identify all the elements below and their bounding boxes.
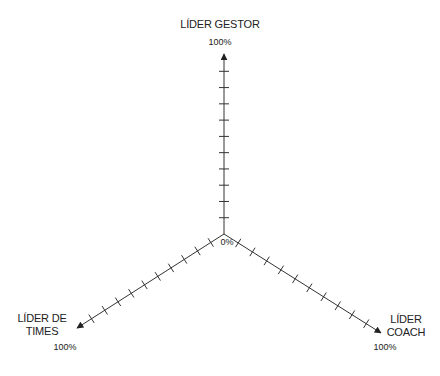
axis-max-coach: 100%	[360, 341, 410, 354]
axis-label-coach-line1: LÍDER	[376, 313, 436, 326]
axis-label-gestor: LÍDER GESTOR	[170, 18, 270, 31]
origin-label: 0%	[216, 236, 238, 249]
axis-coach	[224, 234, 381, 333]
axis-label-coach-line2: COACH	[376, 326, 436, 339]
axis-label-times-line1: LÍDER DE	[12, 312, 72, 325]
axis-max-gestor: 100%	[195, 36, 245, 49]
axis-gestor	[219, 54, 229, 234]
axis-max-times: 100%	[40, 341, 90, 354]
axis-label-times: LÍDER DE TIMES	[12, 312, 72, 338]
axis-label-coach: LÍDER COACH	[376, 313, 436, 339]
axis-label-times-line2: TIMES	[12, 325, 72, 338]
axis-times	[77, 234, 224, 328]
